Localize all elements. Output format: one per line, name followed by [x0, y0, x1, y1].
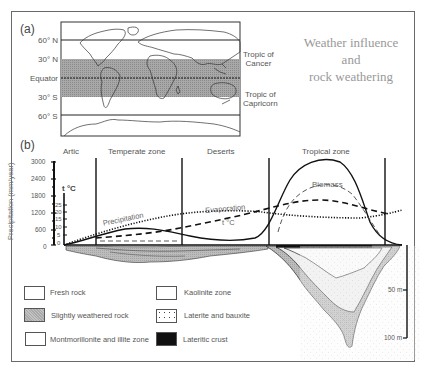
depth-tick-50m: 50 m — [388, 286, 402, 293]
legend-label-kaolinite: Kaolinite zone — [184, 288, 231, 297]
legend-label-fresh-rock: Fresh rock — [50, 288, 85, 297]
legend-swatch-lateritic-crust — [156, 332, 177, 346]
legend-label-laterite: Laterite and bauxite — [184, 311, 250, 320]
temperature-curve-label: t °C — [222, 218, 235, 227]
legend-swatch-montmorillonite — [25, 332, 46, 346]
legend-label-slightly-weathered: Slightly weathered rock — [51, 311, 129, 320]
biomass-label: Biomass — [312, 180, 343, 189]
legend-swatch-slightly-weathered — [24, 308, 45, 322]
legend-label-lateritic-crust: Lateritic crust — [183, 335, 228, 344]
legend-label-montmorillonite: Montmorillonite and illite zone — [50, 335, 149, 344]
legend-swatch-kaolinite — [156, 286, 177, 300]
legend-swatch-fresh-rock — [24, 286, 45, 300]
legend-swatch-laterite — [156, 309, 177, 323]
depth-tick-100m: 100 m — [384, 334, 402, 341]
